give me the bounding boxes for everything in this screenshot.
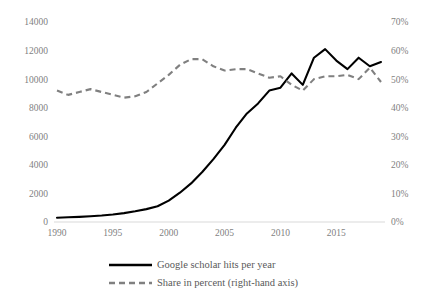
x-axis-tick-label: 2005: [215, 228, 234, 238]
x-axis-tick-label: 1990: [48, 228, 67, 238]
y-axis-right-tick-label: 0%: [391, 217, 404, 227]
line-chart: 02000400060008000100001200014000 0%10%20…: [0, 0, 430, 304]
y-axis-left-tick-label: 12000: [24, 46, 48, 56]
y-axis-right-tick-label: 50%: [391, 75, 409, 85]
x-axis-tick-label: 1995: [103, 228, 122, 238]
x-axis-tick-label: 2000: [159, 228, 178, 238]
y-axis-right-tick-label: 20%: [391, 160, 409, 170]
y-axis-left-tick-label: 0: [43, 217, 48, 227]
legend-label-2: Share in percent (right-hand axis): [157, 277, 299, 289]
y-axis-left-tick-label: 2000: [29, 189, 48, 199]
y-axis-right-tick-label: 70%: [391, 17, 409, 27]
legend-label-1: Google scholar hits per year: [157, 259, 276, 270]
y-axis-left-tick-label: 8000: [29, 103, 48, 113]
x-axis-tick-label: 2015: [327, 228, 346, 238]
y-axis-right-tick-label: 30%: [391, 132, 409, 142]
y-axis-left-tick-label: 6000: [29, 132, 48, 142]
chart-container: 02000400060008000100001200014000 0%10%20…: [0, 0, 430, 304]
y-axis-right-tick-label: 10%: [391, 189, 409, 199]
y-axis-left-tick-label: 14000: [24, 17, 48, 27]
y-axis-left-tick-label: 10000: [24, 75, 48, 85]
x-axis-tick-label: 2010: [271, 228, 290, 238]
y-axis-right-tick-label: 60%: [391, 46, 409, 56]
y-axis-right-tick-label: 40%: [391, 103, 409, 113]
y-axis-left-tick-label: 4000: [29, 160, 48, 170]
